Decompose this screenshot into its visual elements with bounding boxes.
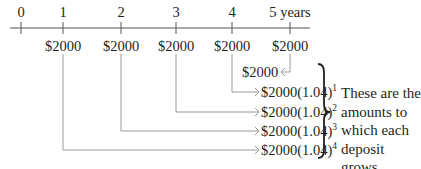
tick-label-5: 5 years bbox=[269, 4, 310, 20]
result-year-4: $2000(1.04)1 bbox=[261, 84, 337, 102]
connector-year-3 bbox=[176, 54, 259, 112]
result-year-1: $2000(1.04)4 bbox=[261, 142, 337, 160]
tick-label-2: 2 bbox=[117, 4, 124, 20]
result-year-5: $2000 bbox=[242, 64, 278, 80]
tick-label-0: 0 bbox=[17, 4, 24, 20]
brace-annotation: These are the amounts to which each depo… bbox=[341, 84, 421, 169]
connector-year-1 bbox=[63, 54, 259, 150]
deposit-year-5: $2000 bbox=[272, 38, 308, 54]
deposit-year-4: $2000 bbox=[214, 38, 250, 54]
tick-label-1: 1 bbox=[59, 4, 66, 20]
tick-label-3: 3 bbox=[172, 4, 179, 20]
deposit-year-1: $2000 bbox=[45, 38, 81, 54]
deposit-year-2: $2000 bbox=[103, 38, 139, 54]
deposit-year-3: $2000 bbox=[158, 38, 194, 54]
result-year-3: $2000(1.04)2 bbox=[261, 104, 337, 122]
tick-label-4: 4 bbox=[228, 4, 235, 20]
result-year-2: $2000(1.04)3 bbox=[261, 123, 337, 141]
connector-year-5 bbox=[281, 54, 290, 72]
